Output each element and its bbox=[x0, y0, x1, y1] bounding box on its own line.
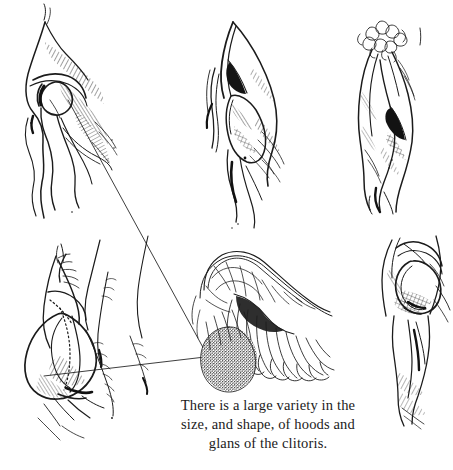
panel-top-center-art bbox=[207, 22, 284, 229]
panel-bottom-left-art bbox=[25, 236, 148, 440]
panel-center-detail-art bbox=[192, 251, 334, 392]
plate-caption: There is a large variety in the size, an… bbox=[168, 396, 368, 454]
panel-top-left-art bbox=[25, 4, 117, 218]
leader-upper bbox=[68, 100, 206, 353]
panel-bottom-right-art bbox=[382, 236, 450, 429]
leader-lines bbox=[44, 100, 206, 376]
illustration-plate: There is a large variety in the size, an… bbox=[0, 0, 453, 470]
panel-top-right-art bbox=[358, 21, 421, 214]
